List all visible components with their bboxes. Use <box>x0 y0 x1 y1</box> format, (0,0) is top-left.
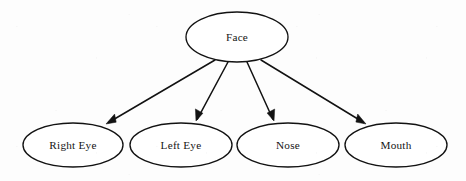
diagram-canvas: Face Right Eye Left Eye Nose Mouth <box>0 0 466 181</box>
edge-face-nose-line <box>247 62 273 119</box>
node-nose-label: Nose <box>276 139 300 151</box>
edge-face-mouth[interactable] <box>261 60 366 124</box>
edge-face-nose[interactable] <box>247 62 275 121</box>
edge-face-mouth-line <box>261 60 364 123</box>
node-face-label: Face <box>226 31 248 43</box>
node-left-eye-label: Left Eye <box>161 139 202 151</box>
edge-group <box>106 60 366 124</box>
edge-face-left-eye-line <box>197 62 228 119</box>
edge-face-right-eye-arrowhead <box>106 114 116 124</box>
node-left-eye[interactable]: Left Eye <box>130 123 232 167</box>
edge-face-mouth-arrowhead <box>356 114 366 124</box>
node-mouth-label: Mouth <box>380 139 411 151</box>
node-face[interactable]: Face <box>186 12 288 62</box>
node-right-eye-label: Right Eye <box>49 139 96 151</box>
edge-face-left-eye[interactable] <box>195 62 228 121</box>
face-hierarchy-diagram: Face Right Eye Left Eye Nose Mouth <box>0 0 466 181</box>
node-right-eye[interactable]: Right Eye <box>23 123 123 167</box>
node-nose[interactable]: Nose <box>237 123 339 167</box>
node-mouth[interactable]: Mouth <box>345 123 447 167</box>
